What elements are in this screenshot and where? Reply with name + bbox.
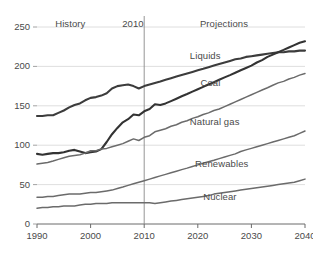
y-axis-tick-label: 200	[0, 60, 30, 71]
y-axis-tick-label: 250	[0, 21, 30, 32]
divider-year-label: 2010	[0, 18, 313, 29]
series-label-coal: Coal	[201, 77, 221, 88]
energy-consumption-chart: LiquidsCoalNatural gasRenewablesNuclearH…	[0, 0, 313, 254]
chart-plot-area	[0, 0, 313, 254]
y-axis-tick-label: 50	[0, 179, 30, 190]
y-axis-tick-label: 0	[0, 218, 30, 229]
y-axis-tick-label: 150	[0, 100, 30, 111]
x-axis-tick-label: 2010	[124, 230, 164, 241]
series-label-renewables: Renewables	[195, 158, 248, 169]
series-label-nuclear: Nuclear	[203, 191, 236, 202]
series-label-liquids: Liquids	[190, 50, 221, 61]
x-axis-tick-label: 2030	[231, 230, 271, 241]
x-axis-tick-label: 2020	[178, 230, 218, 241]
x-axis-tick-label: 1990	[17, 230, 57, 241]
series-label-natural-gas: Natural gas	[190, 116, 240, 127]
series-line-coal	[37, 41, 305, 155]
x-axis-tick-label: 2040	[285, 230, 313, 241]
y-axis-tick-label: 100	[0, 139, 30, 150]
x-axis-tick-label: 2000	[71, 230, 111, 241]
